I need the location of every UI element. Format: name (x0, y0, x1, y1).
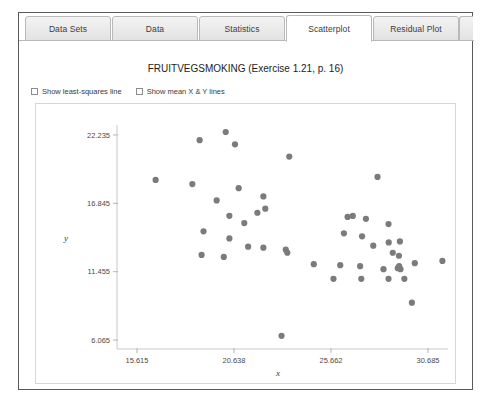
x-tick-label: 20.638 (223, 356, 246, 365)
tab-residual-plot[interactable]: Residual Plot (373, 16, 459, 41)
data-point (409, 300, 415, 306)
x-axis-ticks: 15.61520.63825.66230.685 (126, 348, 440, 365)
tab-overflow-area (459, 16, 473, 41)
plot-options: Show least-squares line Show mean X & Y … (31, 85, 225, 97)
x-axis-title: x (275, 368, 280, 378)
data-point (390, 250, 396, 256)
data-point (214, 197, 220, 203)
scatterplot-panel: 22.23516.84511.4556.065 15.61520.63825.6… (35, 103, 456, 384)
data-point (359, 233, 365, 239)
y-tick-label: 6.065 (91, 336, 110, 345)
data-point (241, 220, 247, 226)
data-point (330, 276, 336, 282)
data-point (260, 193, 266, 199)
x-tick-label: 15.615 (126, 356, 149, 365)
data-point (380, 266, 386, 272)
tab-data[interactable]: Data (112, 16, 198, 41)
data-point (311, 261, 317, 267)
data-point (350, 213, 356, 219)
checkbox-least-squares-line[interactable] (31, 88, 38, 95)
data-point (262, 206, 268, 212)
application-window: Data Sets Data Statistics Scatterplot Re… (18, 12, 473, 390)
data-point (401, 276, 407, 282)
data-point (223, 129, 229, 135)
option-least-squares-line[interactable]: Show least-squares line (31, 87, 122, 96)
option-label: Show mean X & Y lines (147, 87, 225, 96)
tab-label: Residual Plot (390, 24, 441, 34)
data-point (232, 141, 238, 147)
y-tick-label: 22.235 (87, 131, 110, 140)
y-axis-ticks: 22.23516.84511.4556.065 (87, 131, 118, 345)
tab-statistics[interactable]: Statistics (199, 16, 285, 41)
data-point (396, 263, 402, 269)
data-point (198, 252, 204, 258)
y-tick-label: 11.455 (88, 267, 110, 276)
data-point (197, 137, 203, 143)
data-point (344, 214, 350, 220)
tab-bar: Data Sets Data Statistics Scatterplot Re… (19, 13, 474, 41)
data-point (358, 276, 364, 282)
y-axis-title: y (63, 233, 68, 243)
x-tick-label: 30.685 (417, 356, 440, 365)
data-point (260, 245, 266, 251)
tab-label: Data Sets (49, 24, 87, 34)
data-point (189, 181, 195, 187)
data-point (374, 174, 380, 180)
data-point (226, 213, 232, 219)
data-point (278, 333, 284, 339)
data-point (385, 221, 391, 227)
data-point (397, 238, 403, 244)
data-point (236, 185, 242, 191)
data-point (386, 239, 392, 245)
tab-scatterplot[interactable]: Scatterplot (286, 15, 372, 42)
data-point (254, 210, 260, 216)
tab-label: Data (146, 24, 164, 34)
data-point (439, 258, 445, 264)
scatterplot-svg: 22.23516.84511.4556.065 15.61520.63825.6… (36, 104, 455, 383)
data-point (385, 276, 391, 282)
data-point (226, 235, 232, 241)
data-point (286, 153, 292, 159)
data-point (357, 263, 363, 269)
data-point (337, 262, 343, 268)
data-point (396, 253, 402, 259)
tab-content-scatterplot: FRUITVEGSMOKING (Exercise 1.21, p. 16) S… (19, 41, 472, 389)
tab-label: Statistics (224, 24, 259, 34)
axes (117, 125, 448, 349)
data-point (245, 244, 251, 250)
data-point (341, 230, 347, 236)
y-tick-label: 16.845 (87, 199, 110, 208)
data-point (284, 250, 290, 256)
option-label: Show least-squares line (42, 87, 122, 96)
data-point (363, 216, 369, 222)
x-tick-label: 25.662 (320, 356, 343, 365)
data-point (221, 254, 227, 260)
tab-data-sets[interactable]: Data Sets (25, 16, 111, 41)
data-point (412, 260, 418, 266)
data-point (153, 177, 159, 183)
option-mean-xy-lines[interactable]: Show mean X & Y lines (136, 87, 225, 96)
data-point (200, 228, 206, 234)
checkbox-mean-xy-lines[interactable] (136, 88, 143, 95)
data-points (153, 129, 446, 339)
tab-label: Scatterplot (308, 24, 350, 34)
page-title: FRUITVEGSMOKING (Exercise 1.21, p. 16) (19, 63, 472, 74)
data-point (370, 243, 376, 249)
